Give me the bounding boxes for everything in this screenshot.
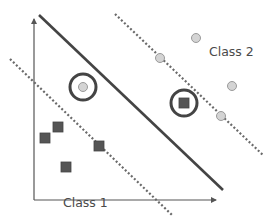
class2-circle-point — [228, 82, 237, 91]
class1-square-point — [61, 162, 71, 172]
class2-circle-point — [217, 112, 226, 121]
class1-square-point — [40, 133, 50, 143]
misclassified-points — [70, 74, 197, 116]
class2-label: Class 2 — [209, 46, 254, 59]
class2-circle-point — [156, 54, 165, 63]
upper-margin-line — [115, 14, 264, 156]
class1-label: Class 1 — [63, 197, 108, 210]
class2-circle-point — [79, 83, 88, 92]
class2-circle-point — [192, 34, 201, 43]
class1-square-point — [53, 122, 63, 132]
class1-square-point — [94, 141, 104, 151]
class1-points — [40, 122, 104, 172]
class1-square-point — [179, 98, 189, 108]
svm-diagram — [0, 0, 275, 221]
